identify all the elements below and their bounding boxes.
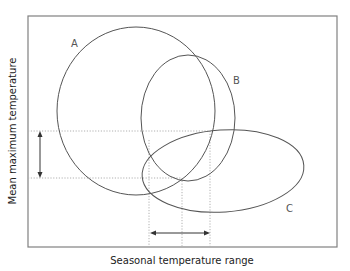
- region-a-label: A: [71, 38, 78, 49]
- vertical-range-arrow: [38, 131, 43, 178]
- horizontal-range-arrow: [150, 231, 210, 236]
- region-b-ellipse: [141, 55, 235, 181]
- arrow-left-icon: [150, 231, 156, 236]
- x-axis-label: Seasonal temperature range: [110, 255, 254, 266]
- region-b-label: B: [233, 75, 240, 86]
- climate-envelope-diagram: A B C Seasonal temperature range Mean ma…: [0, 0, 350, 271]
- arrow-right-icon: [204, 231, 210, 236]
- y-axis-label: Mean maximum temperature: [7, 58, 18, 205]
- arrow-down-icon: [38, 172, 43, 178]
- guide-lines: [28, 131, 210, 247]
- region-a-circle: [57, 27, 215, 195]
- arrow-up-icon: [38, 131, 43, 137]
- region-c-ellipse: [139, 124, 306, 217]
- region-c-label: C: [286, 203, 293, 214]
